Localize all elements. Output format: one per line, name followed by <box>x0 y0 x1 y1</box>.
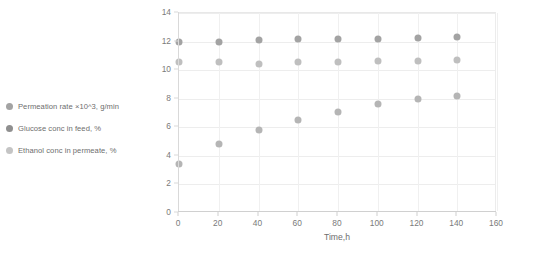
y-tick-label: 6 <box>166 121 171 131</box>
x-tick-label: 140 <box>449 218 463 228</box>
y-tick-mark <box>174 69 178 70</box>
plot-wrapper: Time,h 02468101214020406080100120140160 <box>178 12 496 212</box>
chart-legend: Permeation rate ×10^3, g/minGlucose conc… <box>6 95 166 161</box>
legend-item-label: Ethanol conc in permeate, % <box>18 146 116 155</box>
data-point <box>215 59 222 66</box>
legend-marker-icon <box>6 147 13 154</box>
legend-marker-icon <box>6 125 13 132</box>
x-tick-mark <box>178 212 179 216</box>
y-gridline <box>179 127 495 128</box>
y-axis-line <box>178 12 179 212</box>
data-point <box>335 35 342 42</box>
data-point <box>414 57 421 64</box>
scatter-chart: Permeation rate ×10^3, g/minGlucose conc… <box>0 0 541 257</box>
x-tick-mark <box>257 212 258 216</box>
x-tick-mark <box>416 212 417 216</box>
data-point <box>215 141 222 148</box>
x-tick-label: 160 <box>489 218 503 228</box>
x-tick-label: 60 <box>293 218 302 228</box>
data-point <box>374 101 381 108</box>
legend-item[interactable]: Permeation rate ×10^3, g/min <box>6 95 166 117</box>
data-point <box>454 57 461 64</box>
x-tick-mark <box>496 212 497 216</box>
y-gridline <box>179 99 495 100</box>
x-tick-label: 80 <box>332 218 341 228</box>
y-gridline <box>179 184 495 185</box>
data-point <box>454 92 461 99</box>
y-tick-label: 10 <box>162 64 171 74</box>
legend-item-label: Permeation rate ×10^3, g/min <box>18 102 119 111</box>
data-point <box>255 37 262 44</box>
x-tick-label: 0 <box>176 218 181 228</box>
y-tick-mark <box>174 40 178 41</box>
legend-item[interactable]: Ethanol conc in permeate, % <box>6 139 166 161</box>
x-gridline <box>418 13 419 211</box>
data-point <box>255 61 262 68</box>
y-tick-mark <box>174 183 178 184</box>
y-gridline <box>179 156 495 157</box>
data-point <box>335 108 342 115</box>
y-tick-label: 8 <box>166 93 171 103</box>
data-point <box>335 58 342 65</box>
x-tick-label: 40 <box>253 218 262 228</box>
legend-item[interactable]: Glucose conc in feed, % <box>6 117 166 139</box>
y-tick-label: 0 <box>166 207 171 217</box>
y-tick-label: 14 <box>162 7 171 17</box>
data-point <box>374 35 381 42</box>
y-tick-label: 2 <box>166 178 171 188</box>
x-tick-mark <box>456 212 457 216</box>
x-tick-mark <box>217 212 218 216</box>
x-tick-mark <box>297 212 298 216</box>
data-point <box>176 161 183 168</box>
legend-item-label: Glucose conc in feed, % <box>18 124 101 133</box>
data-point <box>454 34 461 41</box>
data-point <box>295 36 302 43</box>
y-tick-label: 12 <box>162 36 171 46</box>
x-tick-mark <box>337 212 338 216</box>
x-tick-label: 20 <box>213 218 222 228</box>
data-point <box>374 57 381 64</box>
data-point <box>295 117 302 124</box>
data-point <box>176 58 183 65</box>
y-tick-label: 4 <box>166 150 171 160</box>
x-axis-title: Time,h <box>178 232 496 242</box>
y-tick-mark <box>174 154 178 155</box>
y-tick-mark <box>174 12 178 13</box>
plot-area <box>178 12 496 212</box>
data-point <box>295 58 302 65</box>
y-tick-mark <box>174 97 178 98</box>
data-point <box>414 95 421 102</box>
y-gridline <box>179 70 495 71</box>
x-tick-label: 100 <box>370 218 384 228</box>
y-gridline <box>179 13 495 14</box>
data-point <box>215 38 222 45</box>
data-point <box>255 127 262 134</box>
x-tick-label: 120 <box>410 218 424 228</box>
y-tick-mark <box>174 126 178 127</box>
x-gridline <box>378 13 379 211</box>
x-gridline <box>497 13 498 211</box>
data-point <box>414 35 421 42</box>
legend-marker-icon <box>6 103 13 110</box>
x-tick-mark <box>376 212 377 216</box>
x-gridline <box>457 13 458 211</box>
